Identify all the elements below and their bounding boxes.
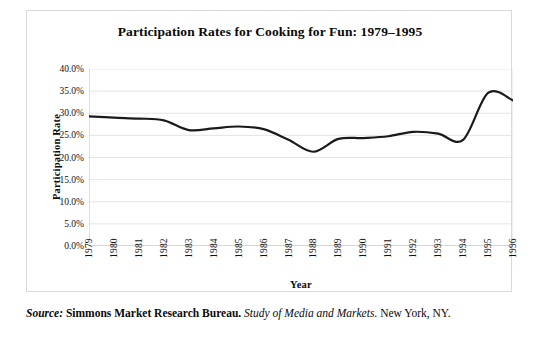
source-note: Source: Simmons Market Research Bureau. … [26, 307, 526, 319]
x-axis-tick-label-text: 1986 [259, 238, 269, 258]
x-axis-tick-label-text: 1984 [209, 238, 219, 258]
x-axis-tick-label-text: 1992 [408, 238, 418, 258]
source-location: New York, NY. [380, 307, 450, 319]
source-label: Source: [26, 307, 63, 319]
x-axis-tick-label-text: 1982 [159, 238, 169, 258]
x-axis-tick-label-text: 1989 [333, 238, 343, 258]
source-publication: Study of Media and Markets. [244, 307, 377, 319]
y-axis-tick-label: 40.0% [59, 64, 84, 74]
chart-card: Participation Rates for Cooking for Fun:… [26, 10, 512, 292]
line-chart-plot [89, 69, 513, 246]
x-axis-title: Year [89, 279, 513, 290]
y-axis-tick-label: 5.0% [64, 219, 84, 229]
x-axis-tick-label-text: 1979 [84, 238, 94, 258]
x-axis-tick-label-text: 1990 [358, 238, 368, 258]
x-axis-tick-label-text: 1988 [308, 238, 318, 258]
plot-area: Participation Rate 40.0%35.0%30.0%25.0%2… [89, 69, 513, 246]
x-axis-tick-label-text: 1996 [508, 238, 518, 258]
source-publisher: Simmons Market Research Bureau. [66, 307, 241, 319]
y-axis-tick-label: 15.0% [59, 175, 84, 185]
x-axis-tick-label-text: 1983 [184, 238, 194, 258]
x-axis-tick-label-text: 1981 [134, 238, 144, 258]
y-axis-tick-label: 25.0% [59, 130, 84, 140]
x-axis-tick-label-text: 1995 [483, 238, 493, 258]
y-axis-tick-label: 20.0% [59, 153, 84, 163]
figure: Participation Rates for Cooking for Fun:… [0, 0, 538, 340]
gridlines [89, 69, 513, 246]
x-axis-tick-label-text: 1985 [234, 238, 244, 258]
y-axis-tick-label: 0.0% [64, 241, 84, 251]
x-axis-tick-label-text: 1994 [458, 238, 468, 258]
y-axis-tick-label: 10.0% [59, 197, 84, 207]
y-axis-tick-label: 30.0% [59, 108, 84, 118]
x-axis-tick-label-text: 1980 [109, 238, 119, 258]
chart-title: Participation Rates for Cooking for Fun:… [27, 24, 513, 40]
y-axis-tick-label: 35.0% [59, 86, 84, 96]
data-series-line [89, 91, 513, 152]
x-axis-tick-label-text: 1993 [433, 238, 443, 258]
x-axis-tick-label-text: 1991 [383, 238, 393, 258]
x-axis-tick-label-text: 1987 [284, 238, 294, 258]
